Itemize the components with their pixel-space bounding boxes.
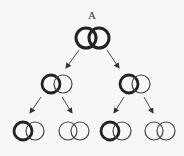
- dna-node-l2-3: [101, 122, 131, 140]
- label-a: A: [88, 9, 96, 21]
- dna-node-l2-1: [14, 122, 44, 140]
- arrow: [114, 97, 124, 113]
- arrow: [62, 97, 72, 113]
- dna-node-l2-2: [59, 122, 89, 140]
- arrow: [144, 97, 153, 113]
- dna-node-l2-4: [145, 122, 175, 140]
- dna-node-l1-right: [120, 75, 150, 93]
- dna-node-a: [76, 28, 109, 48]
- dna-node-l1-left: [42, 75, 72, 93]
- replication-diagram: A: [0, 0, 184, 156]
- arrow: [107, 50, 119, 68]
- arrow: [66, 50, 79, 68]
- arrow: [30, 97, 41, 113]
